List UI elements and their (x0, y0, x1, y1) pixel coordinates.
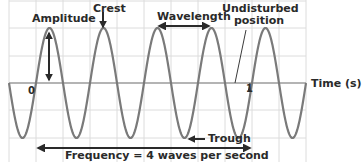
frequency-label: Frequency = 4 waves per second (65, 150, 269, 162)
tick-zero-label: 0 (28, 85, 35, 97)
undisturbed-label: Undisturbed position (222, 3, 296, 27)
time-axis-label: Time (s) (311, 78, 362, 90)
crest-label: Crest (93, 3, 126, 15)
amplitude-label: Amplitude (32, 13, 96, 25)
undisturbed-label-line2: position (222, 15, 296, 27)
wavelength-label: Wavelength (157, 11, 231, 23)
trough-label: Trough (208, 133, 251, 145)
tick-one-label: 1 (246, 83, 253, 95)
